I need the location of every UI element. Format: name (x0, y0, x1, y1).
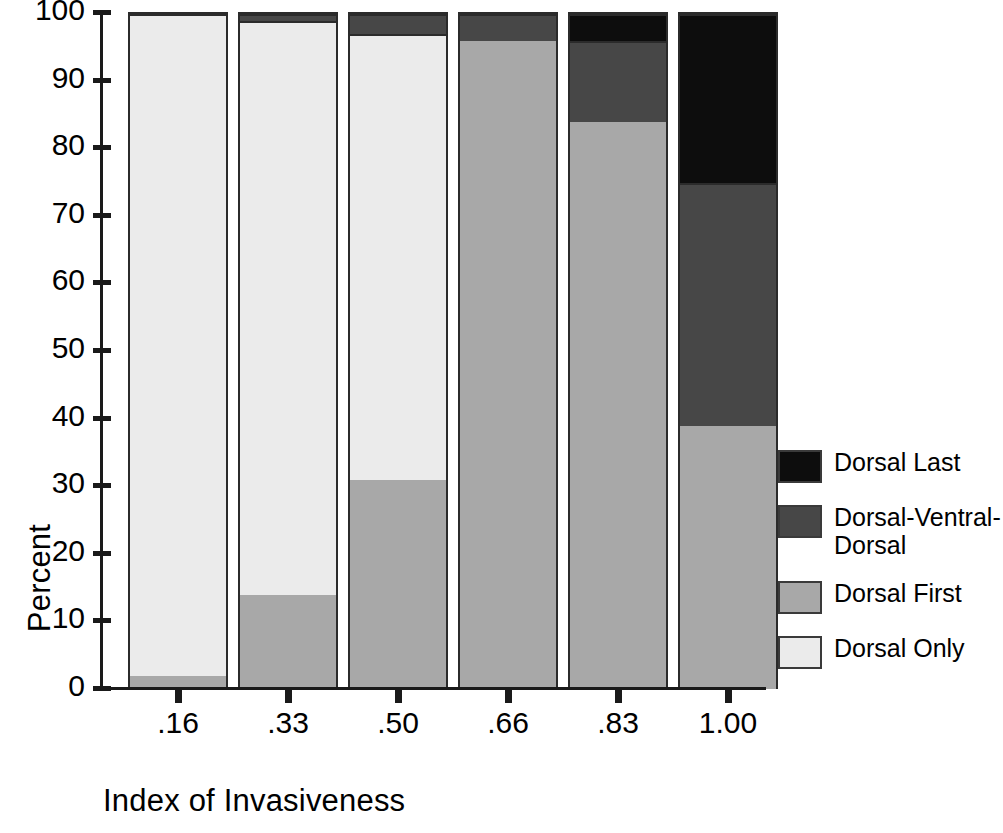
y-axis-tick-label: 100 (0, 0, 85, 25)
bar-segment (130, 14, 226, 676)
x-axis-tick (285, 689, 292, 703)
y-axis-tick-label: 10 (0, 603, 85, 633)
legend-swatch (778, 636, 822, 669)
y-axis-tick-label: 80 (0, 130, 85, 160)
bar-segment (240, 595, 336, 690)
legend-label: Dorsal Last (834, 448, 960, 476)
plot-area (103, 12, 763, 689)
x-axis-tick-label: 1.00 (668, 706, 788, 740)
x-axis-tick (395, 689, 402, 703)
x-axis-title: Index of Invasiveness (103, 783, 405, 819)
x-axis-tick-label: .50 (338, 706, 458, 740)
y-axis-tick-label: 0 (0, 671, 85, 701)
bar-segment (240, 21, 336, 595)
bar-segment (570, 41, 666, 122)
x-axis-tick (615, 689, 622, 703)
y-axis-tick-label: 70 (0, 198, 85, 228)
legend-item[interactable]: Dorsal Last (778, 448, 1003, 483)
bar-segment (680, 183, 776, 426)
legend-label: Dorsal First (834, 579, 962, 607)
bar-.33 (238, 12, 338, 689)
x-axis-tick (505, 689, 512, 703)
legend-label: Dorsal Only (834, 634, 965, 662)
y-axis-tick-label: 90 (0, 63, 85, 93)
legend-label: Dorsal-Ventral- Dorsal (834, 503, 1001, 559)
y-axis-tick-label: 60 (0, 265, 85, 295)
y-axis-tick-label: 40 (0, 401, 85, 431)
bar-segment (350, 34, 446, 480)
bar-.66 (458, 12, 558, 689)
legend-swatch (778, 505, 822, 538)
bar-segment (570, 14, 666, 41)
y-axis-title: Percent (22, 478, 58, 678)
legend-swatch (778, 450, 822, 483)
bar-segment (240, 14, 336, 21)
bar-segment (460, 14, 556, 41)
legend-item[interactable]: Dorsal First (778, 579, 1003, 614)
legend-item[interactable]: Dorsal Only (778, 634, 1003, 669)
y-axis-tick-label: 50 (0, 333, 85, 363)
y-axis-tick-label: 30 (0, 468, 85, 498)
x-axis-tick-label: .16 (118, 706, 238, 740)
bar-.83 (568, 12, 668, 689)
bar-1.00 (678, 12, 778, 689)
x-axis-tick-label: .66 (448, 706, 568, 740)
stacked-bar-chart: Percent 0102030405060708090100 .16.33.50… (0, 0, 1003, 833)
bar-segment (350, 14, 446, 34)
x-axis-tick (725, 689, 732, 703)
bar-.16 (128, 12, 228, 689)
y-axis-tick-label: 20 (0, 536, 85, 566)
x-axis-tick-label: .33 (228, 706, 348, 740)
legend-item[interactable]: Dorsal-Ventral- Dorsal (778, 503, 1003, 559)
bar-segment (680, 14, 776, 183)
bar-segment (350, 480, 446, 689)
bar-.50 (348, 12, 448, 689)
bar-segment (680, 426, 776, 689)
bar-segment (570, 122, 666, 689)
x-axis-tick-label: .83 (558, 706, 678, 740)
x-axis-tick (175, 689, 182, 703)
legend-swatch (778, 581, 822, 614)
chart-legend: Dorsal LastDorsal-Ventral- DorsalDorsal … (778, 448, 1003, 689)
x-axis-line (100, 687, 766, 690)
bar-segment (460, 41, 556, 689)
